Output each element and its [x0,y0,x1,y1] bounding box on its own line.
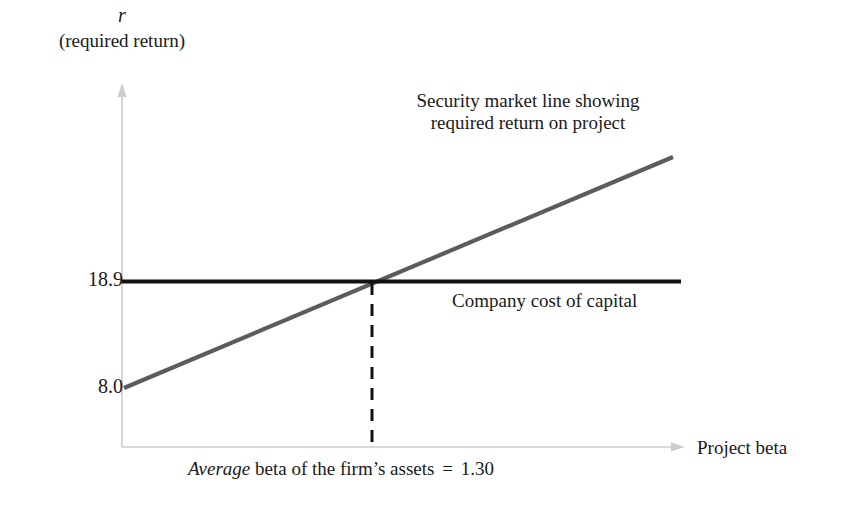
average-beta-caption-rest: beta of the firm’s assets [255,458,434,479]
average-beta-caption-italic: Average [188,458,250,479]
chart-canvas [0,0,846,507]
security-market-line-annotation: Security market line showing required re… [378,90,678,135]
average-beta-caption: Average beta of the firm’s assets = 1.30 [188,458,494,480]
average-beta-caption-value: 1.30 [461,458,494,479]
average-beta-caption-equals: = [439,458,456,479]
y-tick-label-8-0: 8.0 [98,375,123,399]
sml-annotation-line-2: required return on project [431,112,626,133]
y-axis-caption: (required return) [59,30,185,52]
x-axis [122,443,685,452]
security-market-line [124,157,673,388]
y-axis-symbol: r [118,4,126,28]
sml-annotation-line-1: Security market line showing [416,90,639,111]
security-market-line-figure: r (required return) 18.9 8.0 Security ma… [0,0,846,507]
y-tick-label-18-9: 18.9 [88,268,123,292]
x-axis-title: Project beta [697,437,787,459]
company-cost-of-capital-annotation: Company cost of capital [452,290,637,312]
